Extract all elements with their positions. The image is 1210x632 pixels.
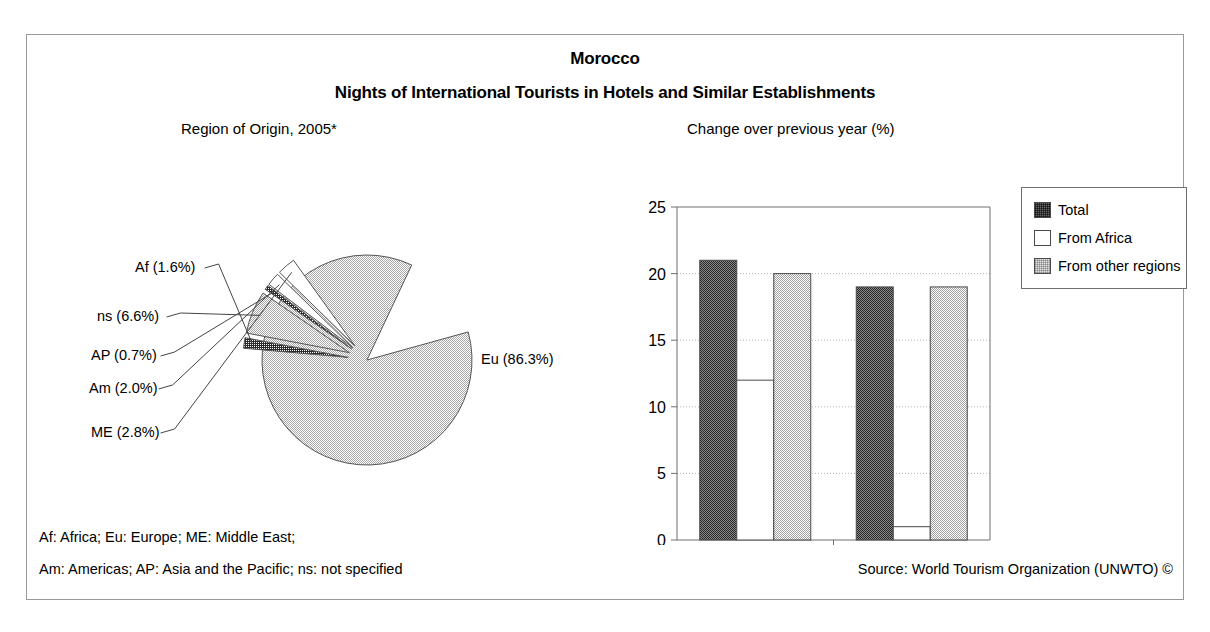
bar-20042003-total[interactable] [700,260,737,540]
pie-label-ns: ns (6.6%) [97,308,159,324]
bar-chart-caption: Change over previous year (%) [687,120,895,137]
legend-item-from-other-regions[interactable]: From other regions [1034,252,1186,280]
pie-chart: Eu (86.3%)Af (1.6%)ns (6.6%)AP (0.7%)Am … [27,145,607,485]
pie-label-af: Af (1.6%) [135,259,195,275]
y-tick-label-15: 15 [648,332,666,349]
legend-item-total[interactable]: Total [1034,196,1186,224]
y-tick-label-5: 5 [657,465,666,482]
y-tick-label-25: 25 [648,199,666,216]
footnote-abbreviations-line2: Am: Americas; AP: Asia and the Pacific; … [39,561,402,577]
bar-group [700,260,968,540]
pie-chart-caption: Region of Origin, 2005* [181,120,337,137]
y-axis-tick-labels: 0510152025 [648,199,666,545]
chart-frame: Morocco Nights of International Tourists… [26,34,1184,600]
bar-20042003-from-africa[interactable] [737,380,774,540]
legend-item-from-africa[interactable]: From Africa [1034,224,1186,252]
source-attribution: Source: World Tourism Organization (UNWT… [858,561,1173,577]
legend-swatch-total [1034,202,1051,218]
footnote-abbreviations-line1: Af: Africa; Eu: Europe; ME: Middle East; [39,529,295,545]
y-tick-label-10: 10 [648,399,666,416]
bar-20052004-total[interactable] [856,287,893,540]
pie-label-ap: AP (0.7%) [91,347,157,363]
pie-label-eu: Eu (86.3%) [481,351,554,367]
bar-20052004-from-africa[interactable] [893,527,930,540]
page-title: Morocco [27,49,1183,69]
pie-label-me: ME (2.8%) [91,424,160,440]
legend-swatch-from-africa [1034,230,1051,246]
legend-label-total: Total [1058,202,1089,218]
bar-20042003-from-other-regions[interactable] [774,274,811,540]
y-tick-label-20: 20 [648,266,666,283]
y-tick-label-0: 0 [657,532,666,545]
pie-chart-svg: Eu (86.3%)Af (1.6%)ns (6.6%)AP (0.7%)Am … [27,145,607,485]
bar-chart-legend: Total From Africa From other regions [1021,187,1187,289]
bar-20052004-from-other-regions[interactable] [930,287,967,540]
pie-leader-ns [167,313,261,317]
legend-label-from-africa: From Africa [1058,230,1132,246]
legend-swatch-from-other-regions [1034,258,1051,274]
legend-label-from-other-regions: From other regions [1058,258,1181,274]
bar-chart: 0510152025 2004/20032005*/2004 Total Fro… [607,145,1185,545]
page-subtitle: Nights of International Tourists in Hote… [27,83,1183,103]
pie-label-am: Am (2.0%) [89,380,158,396]
